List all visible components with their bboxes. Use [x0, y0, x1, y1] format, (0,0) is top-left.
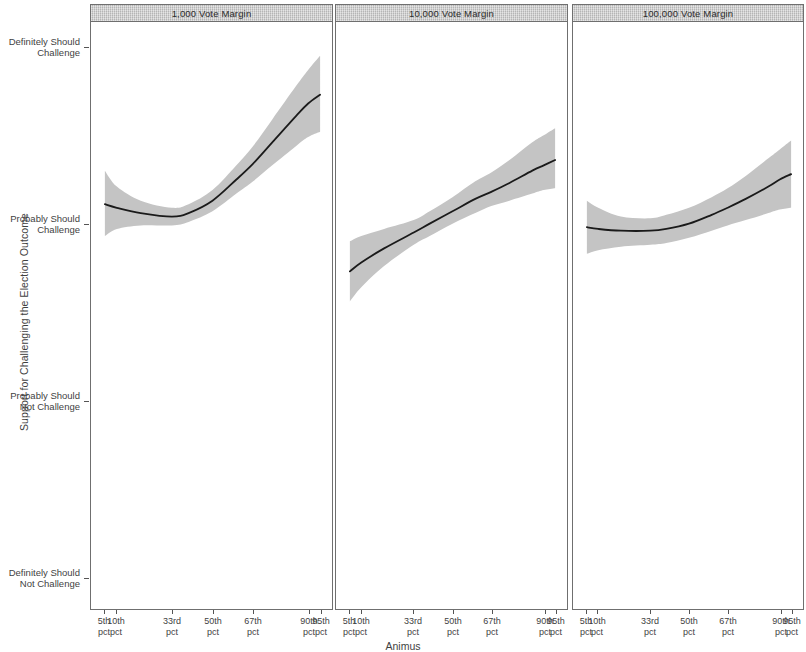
panel-100000-vote-margin: 100,000 Vote Margin [572, 4, 804, 610]
x-tick-mark [309, 610, 310, 614]
panel-1000-vote-margin: 1,000 Vote Margin [90, 4, 333, 610]
x-tick-mark [116, 610, 117, 614]
x-tick-mark [213, 610, 214, 614]
y-tick-label-line2: Not Challenge [8, 578, 80, 589]
x-tick-label-line2: pct [577, 627, 617, 638]
x-tick-label-line1: 67th [233, 616, 273, 627]
x-tick-label-line2: pct [630, 627, 670, 638]
y-tick-mark [84, 224, 89, 225]
x-tick-mark [728, 610, 729, 614]
y-tick-mark [84, 578, 89, 579]
x-tick-label: 33rdpct [393, 616, 433, 638]
x-tick-label: 10thpct [577, 616, 617, 638]
y-tick-label-line1: Probably Should [8, 390, 80, 401]
x-tick-label-line2: pct [669, 627, 709, 638]
x-tick-label-line1: 10th [96, 616, 136, 627]
y-tick-label-line2: Not Challenge [8, 401, 80, 412]
x-tick-label: 10thpct [96, 616, 136, 638]
x-tick-mark [453, 610, 454, 614]
x-tick-mark [172, 610, 173, 614]
panel-body-10000 [335, 22, 568, 610]
panel-title-10000: 10,000 Vote Margin [409, 8, 494, 19]
panel-body-1000 [90, 22, 333, 610]
x-tick-label-line1: 50th [669, 616, 709, 627]
x-tick-label-line2: pct [393, 627, 433, 638]
y-tick-label: Probably ShouldChallenge [8, 213, 80, 235]
panel-10000-vote-margin: 10,000 Vote Margin [335, 4, 568, 610]
panel-title-1000: 1,000 Vote Margin [172, 8, 252, 19]
x-tick-label: 10thpct [341, 616, 381, 638]
x-tick-mark [792, 610, 793, 614]
x-tick-mark [556, 610, 557, 614]
y-tick-mark [84, 47, 89, 48]
x-tick-mark [492, 610, 493, 614]
x-tick-label-line2: pct [472, 627, 512, 638]
x-tick-label-line2: pct [233, 627, 273, 638]
x-tick-label-line2: pct [152, 627, 192, 638]
x-tick-label-line1: 10th [577, 616, 617, 627]
x-tick-label-line2: pct [341, 627, 381, 638]
y-tick-label-line1: Definitely Should [8, 36, 80, 47]
panel-plot-1000 [91, 22, 332, 609]
x-tick-label-line2: pct [772, 627, 806, 638]
x-tick-mark [689, 610, 690, 614]
x-axis-title: Animus [0, 640, 806, 652]
x-tick-mark [104, 610, 105, 614]
x-tick-label: 67thpct [233, 616, 273, 638]
panel-title-100000: 100,000 Vote Margin [643, 8, 734, 19]
x-tick-label-line2: pct [96, 627, 136, 638]
confidence-band [350, 128, 555, 301]
x-tick-label-line1: 33rd [152, 616, 192, 627]
x-tick-mark [650, 610, 651, 614]
x-tick-mark [349, 610, 350, 614]
x-tick-label-line1: 67th [472, 616, 512, 627]
x-tick-label: 50thpct [669, 616, 709, 638]
panel-plot-100000 [573, 22, 803, 609]
x-tick-label: 33rdpct [152, 616, 192, 638]
x-tick-label-line1: 10th [341, 616, 381, 627]
y-axis-title: Support for Challenging the Election Out… [18, 0, 36, 644]
x-tick-label-line2: pct [433, 627, 473, 638]
panel-plot-10000 [336, 22, 567, 609]
panel-header-10000: 10,000 Vote Margin [335, 4, 568, 22]
y-tick-label-line2: Challenge [8, 47, 80, 58]
panel-body-100000 [572, 22, 804, 610]
x-tick-mark [253, 610, 254, 614]
x-tick-label: 50thpct [433, 616, 473, 638]
y-tick-label: Definitely ShouldNot Challenge [8, 567, 80, 589]
x-tick-mark [545, 610, 546, 614]
panel-header-1000: 1,000 Vote Margin [90, 4, 333, 22]
y-tick-label: Probably ShouldNot Challenge [8, 390, 80, 412]
x-tick-label-line1: 33rd [393, 616, 433, 627]
x-tick-label-line1: 67th [708, 616, 748, 627]
x-tick-label-line1: 50th [193, 616, 233, 627]
x-tick-label: 67thpct [708, 616, 748, 638]
confidence-band [587, 141, 791, 254]
x-tick-label-line1: 95th [772, 616, 806, 627]
x-tick-mark [781, 610, 782, 614]
x-tick-label-line2: pct [708, 627, 748, 638]
x-tick-label: 33rdpct [630, 616, 670, 638]
panel-header-100000: 100,000 Vote Margin [572, 4, 804, 22]
y-tick-label-line1: Probably Should [8, 213, 80, 224]
y-tick-mark [84, 401, 89, 402]
x-tick-mark [586, 610, 587, 614]
x-tick-label: 95thpct [772, 616, 806, 638]
x-tick-mark [597, 610, 598, 614]
x-tick-label-line1: 50th [433, 616, 473, 627]
y-tick-label-line1: Definitely Should [8, 567, 80, 578]
confidence-band [105, 56, 320, 236]
x-tick-label-line2: pct [193, 627, 233, 638]
x-tick-label-line1: 33rd [630, 616, 670, 627]
y-tick-label: Definitely ShouldChallenge [8, 36, 80, 58]
x-tick-mark [413, 610, 414, 614]
x-tick-label: 67thpct [472, 616, 512, 638]
x-tick-label: 50thpct [193, 616, 233, 638]
y-tick-label-line2: Challenge [8, 224, 80, 235]
x-tick-mark [321, 610, 322, 614]
x-tick-mark [361, 610, 362, 614]
